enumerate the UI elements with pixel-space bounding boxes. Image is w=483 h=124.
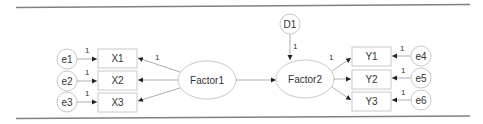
indicator-x2: X2 (98, 71, 137, 90)
path-label-e1-x1: 1 (85, 46, 90, 55)
indicator-y1: Y1 (352, 47, 391, 66)
error-e6-label: e6 (415, 95, 427, 106)
latent-factor2-label: Factor2 (288, 74, 322, 85)
indicator-x1: X1 (98, 49, 137, 68)
indicator-x3: X3 (98, 93, 137, 112)
indicator-y2: Y2 (352, 70, 391, 89)
error-e6: e6 (411, 90, 431, 110)
sem-diagram: e1 e2 e3 1 1 1 X1 X2 X3 1 Factor1 D1 (0, 0, 483, 124)
indicator-x2-label: X2 (111, 75, 124, 86)
path-label-e2-x2: 1 (85, 68, 90, 77)
error-e4: e4 (411, 46, 431, 66)
latent-factor1-label: Factor1 (190, 75, 224, 86)
indicator-y3: Y3 (352, 92, 391, 111)
disturbance-d1-label: D1 (284, 19, 297, 30)
path-label-e6-y3: 1 (401, 88, 406, 97)
path-label-factor1-x1: 1 (155, 53, 160, 62)
error-e3: e3 (57, 92, 77, 112)
disturbance-d1: D1 (280, 14, 300, 34)
path-label-e4-y1: 1 (400, 44, 405, 53)
path-label-d1-factor2: 1 (293, 42, 298, 51)
error-e2-label: e2 (61, 76, 73, 87)
indicator-x1-label: X1 (111, 53, 124, 64)
indicator-y3-label: Y3 (365, 96, 378, 107)
error-e4-label: e4 (415, 51, 427, 62)
indicator-y1-label: Y1 (365, 51, 378, 62)
error-e1-label: e1 (61, 54, 73, 65)
indicator-x3-label: X3 (111, 97, 124, 108)
path-label-e3-x3: 1 (85, 89, 90, 98)
path-factor2-y3 (332, 87, 351, 100)
path-label-factor2-y1: 1 (329, 53, 334, 62)
error-e2: e2 (57, 71, 77, 91)
error-e3-label: e3 (61, 97, 73, 108)
latent-factor2: Factor2 (276, 60, 334, 98)
error-e5-label: e5 (415, 73, 427, 84)
top-rule (16, 5, 470, 8)
latent-factor1: Factor1 (178, 61, 236, 99)
path-factor1-x3 (138, 88, 180, 101)
bottom-rule (16, 116, 470, 119)
error-e1: e1 (57, 49, 77, 69)
path-factor2-y1 (332, 58, 351, 71)
indicator-y2-label: Y2 (365, 74, 378, 85)
path-label-e5-y2: 1 (401, 66, 406, 75)
error-e5: e5 (411, 68, 431, 88)
